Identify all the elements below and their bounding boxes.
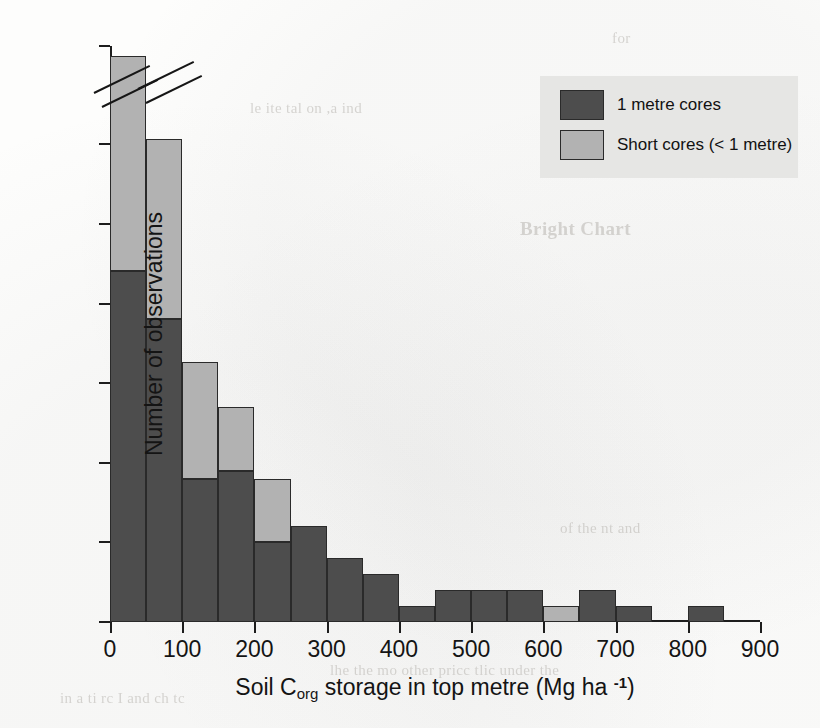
bar-light-200 — [254, 479, 290, 543]
legend-swatch-dark — [560, 90, 604, 120]
legend-label-1-metre-cores: 1 metre cores — [617, 95, 721, 115]
x-axis-title-sup: -1 — [614, 674, 627, 691]
bar-dark-250 — [291, 526, 327, 622]
x-axis-title-sub: org — [297, 685, 319, 702]
bar-dark-400 — [399, 606, 435, 622]
x-axis-title-mid: storage in top metre (Mg ha — [318, 674, 613, 700]
legend-swatch-light — [560, 130, 604, 160]
y-tick-30 — [99, 143, 110, 145]
x-tick-500 — [471, 622, 473, 633]
bar-light-100 — [182, 362, 218, 478]
bar-dark-150 — [218, 471, 254, 622]
x-tick-label-700: 700 — [596, 638, 634, 661]
bar-dark-200 — [254, 542, 290, 622]
x-axis-title-post: ) — [627, 674, 635, 700]
x-tick-label-500: 500 — [452, 638, 490, 661]
bar-dark-500 — [471, 590, 507, 622]
y-tick-70 — [99, 45, 110, 47]
y-tick-0 — [99, 621, 110, 623]
bar-dark-350 — [363, 574, 399, 622]
x-tick-label-900: 900 — [741, 638, 779, 661]
axis-break-marks — [92, 58, 212, 124]
y-axis-title: Number of observations — [141, 212, 168, 456]
x-tick-900 — [760, 622, 762, 633]
x-tick-label-600: 600 — [524, 638, 562, 661]
x-tick-300 — [327, 622, 329, 633]
x-tick-label-200: 200 — [235, 638, 273, 661]
bar-light-600 — [543, 606, 579, 622]
figure-container: for Bright Chart lhe the mo other pricc … — [0, 0, 820, 728]
x-tick-0 — [110, 622, 112, 633]
x-tick-700 — [616, 622, 618, 633]
bar-dark-550 — [507, 590, 543, 622]
ghost-text-0: for — [612, 30, 631, 47]
x-tick-label-400: 400 — [380, 638, 418, 661]
legend: 1 metre cores Short cores (< 1 metre) — [540, 76, 798, 178]
y-tick-20 — [99, 303, 110, 305]
bar-dark-650 — [579, 590, 615, 622]
y-tick-10 — [99, 462, 110, 464]
x-tick-600 — [543, 622, 545, 633]
legend-entry-1-metre-cores: 1 metre cores — [560, 90, 798, 120]
bar-dark-700 — [616, 606, 652, 622]
y-tick-25 — [99, 223, 110, 225]
y-tick-15 — [99, 382, 110, 384]
bar-dark-300 — [327, 558, 363, 622]
legend-entry-short-cores: Short cores (< 1 metre) — [560, 130, 798, 160]
x-tick-400 — [399, 622, 401, 633]
x-tick-200 — [254, 622, 256, 633]
x-tick-100 — [182, 622, 184, 633]
x-tick-label-100: 100 — [163, 638, 201, 661]
y-tick-5 — [99, 541, 110, 543]
bar-dark-450 — [435, 590, 471, 622]
x-tick-label-0: 0 — [104, 638, 117, 661]
bar-dark-800 — [688, 606, 724, 622]
x-tick-800 — [688, 622, 690, 633]
bar-dark-100 — [182, 479, 218, 622]
x-tick-label-300: 300 — [307, 638, 345, 661]
x-axis-title-pre: Soil C — [235, 674, 296, 700]
x-axis-title: Soil Corg storage in top metre (Mg ha -1… — [110, 674, 760, 702]
legend-label-short-cores: Short cores (< 1 metre) — [617, 135, 792, 155]
x-tick-label-800: 800 — [669, 638, 707, 661]
bar-light-150 — [218, 407, 254, 471]
